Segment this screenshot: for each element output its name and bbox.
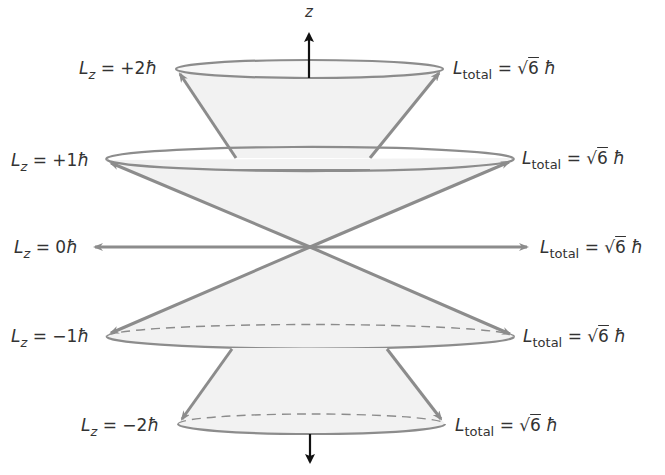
label-ltotal-0: Ltotal = √6 ħ [540,237,643,259]
label-lz-minus-1: Lz = −1ħ [11,326,89,348]
cone-lz-minus-1 [107,247,514,349]
cone-lz-minus-2 [178,348,445,434]
label-lz-0: Lz = 0ħ [14,237,78,259]
label-ltotal-minus-1: Ltotal = √6 ħ [523,326,626,348]
label-lz-plus-2: Lz = +2ħ [79,58,157,80]
label-lz-minus-2: Lz = −2ħ [81,415,159,437]
z-axis-label: z [305,3,313,21]
label-lz-plus-1: Lz = +1ħ [11,150,89,172]
label-ltotal-plus-2: Ltotal = √6 ħ [453,58,556,80]
label-ltotal-minus-2: Ltotal = √6 ħ [455,415,558,437]
cone-lz-plus-1 [106,147,513,247]
label-ltotal-plus-1: Ltotal = √6 ħ [522,148,625,170]
